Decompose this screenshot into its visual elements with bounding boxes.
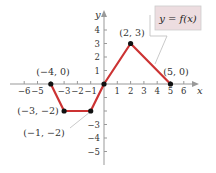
function-label: y = f(x) <box>158 13 197 24</box>
x-tick-label: −3 <box>58 86 71 96</box>
y-axis-label: y <box>94 9 101 20</box>
y-tick-label: 4 <box>95 25 100 35</box>
function-curve <box>51 44 171 112</box>
point-marker <box>62 108 67 113</box>
point-label: (2, 3) <box>119 27 145 38</box>
function-label-callout: y = f(x) <box>150 6 201 64</box>
x-tick-label: 4 <box>154 86 159 96</box>
x-tick-label: −1 <box>84 86 97 96</box>
data-points <box>48 41 173 114</box>
y-tick-label: 2 <box>95 52 100 62</box>
x-tick-label: 5 <box>168 86 173 96</box>
y-tick-label: −5 <box>87 147 100 157</box>
point-label: (5, 0) <box>163 66 189 77</box>
point-marker <box>168 81 173 86</box>
point-marker <box>88 108 93 113</box>
point-label: (−1, −2) <box>23 127 64 138</box>
graph: −6 −5 −3 −2 −1 1 2 3 4 5 6 x 4 3 2 1 −3 <box>0 0 216 173</box>
x-tick-label: −5 <box>31 86 44 96</box>
x-axis: −6 −5 −3 −2 −1 1 2 3 4 5 6 x <box>10 81 203 96</box>
x-tick-label: −2 <box>71 86 84 96</box>
y-tick-label: 1 <box>95 66 100 76</box>
point-marker <box>101 81 106 86</box>
x-axis-label: x <box>197 85 203 96</box>
x-tick-label: 6 <box>181 86 186 96</box>
x-tick-label: −6 <box>18 86 31 96</box>
y-tick-label: −4 <box>87 133 100 143</box>
point-marker <box>128 41 133 46</box>
point-label: (−4, 0) <box>36 66 70 77</box>
y-tick-label: 3 <box>95 39 100 49</box>
x-tick-label: 3 <box>141 86 146 96</box>
x-tick-label: 2 <box>128 86 133 96</box>
x-tick-label: 1 <box>115 86 120 96</box>
y-tick-label: −3 <box>87 120 100 130</box>
point-label: (−3, −2) <box>17 105 58 116</box>
point-marker <box>48 81 53 86</box>
y-axis-arrow-icon <box>101 10 107 17</box>
